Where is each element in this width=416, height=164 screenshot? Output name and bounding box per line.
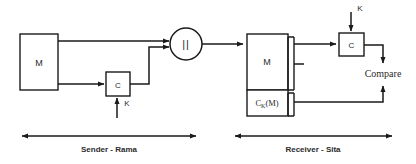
wire-mac-to-concat xyxy=(130,47,169,84)
concat-symbol-label: || xyxy=(182,38,190,50)
mac-diagram-canvas: M C K || M CK(M) C K Compare Sender - Ra… xyxy=(0,0,416,164)
receiver-mac-part-label-tail: (M) xyxy=(265,98,278,108)
sender-section-label: Sender - Rama xyxy=(81,145,138,154)
receiver-connector-bar xyxy=(288,37,294,90)
sender-message-block-label: M xyxy=(35,58,43,68)
sender-mac-box-label: C xyxy=(115,81,121,90)
diagram-vector-layer: M C K || M CK(M) C K Compare Sender - Ra… xyxy=(0,0,416,164)
sender-key-label: K xyxy=(124,99,130,108)
receiver-connector-bar-lower xyxy=(288,93,294,116)
receiver-mac-part-label: CK(M) xyxy=(255,98,278,109)
compare-label: Compare xyxy=(365,68,402,79)
wire-receiver-mac-to-compare xyxy=(364,45,383,63)
receiver-section-label: Receiver - Sita xyxy=(285,145,341,154)
receiver-message-part-label: M xyxy=(263,57,271,67)
receiver-key-label: K xyxy=(357,4,363,13)
receiver-mac-box-label: C xyxy=(349,41,355,50)
wire-receiver-cm-to-compare xyxy=(294,86,383,102)
